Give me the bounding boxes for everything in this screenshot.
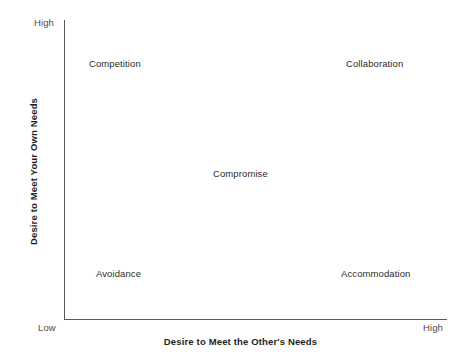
node-compromise: Compromise <box>213 168 268 179</box>
x-axis-line <box>64 319 447 320</box>
x-axis-title: Desire to Meet the Other's Needs <box>148 336 333 347</box>
node-accommodation: Accommodation <box>341 268 410 279</box>
y-axis-low-tick-label: Low <box>38 322 56 333</box>
y-axis-high-tick-label: High <box>34 17 54 28</box>
node-avoidance: Avoidance <box>96 268 141 279</box>
y-axis-line <box>64 20 65 320</box>
conflict-styles-quadrant-diagram: High Low High Desire to Meet Your Own Ne… <box>0 0 456 361</box>
y-axis-title: Desire to Meet Your Own Needs <box>28 92 39 252</box>
x-axis-high-tick-label: High <box>423 322 443 333</box>
node-collaboration: Collaboration <box>346 58 403 69</box>
node-competition: Competition <box>89 58 141 69</box>
